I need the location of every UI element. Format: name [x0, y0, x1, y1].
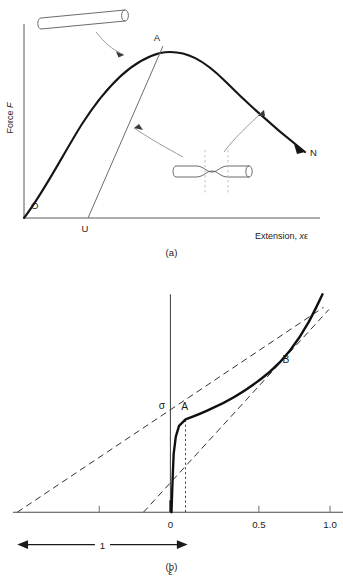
- label-point-a-b: A: [181, 401, 188, 412]
- y-label-prefix: Force: [5, 108, 15, 134]
- pointer-undeformed-to-curve: [96, 32, 124, 55]
- pointer-undeformed-arrowhead: [116, 52, 124, 58]
- true-stress-strain-curve: [172, 294, 323, 512]
- xtick-label-0: 0: [168, 519, 174, 530]
- span-label: 1: [100, 540, 105, 551]
- span-arrowhead-left: [17, 540, 28, 549]
- panel-a-force-extension: A O U N Force F Extension, xε: [0, 0, 343, 245]
- label-point-o: O: [31, 200, 38, 211]
- label-point-n: N: [310, 147, 317, 158]
- force-extension-curve: [24, 52, 305, 218]
- necked-specimen-icon: [173, 150, 252, 194]
- panel-b-stress-strain: σ A B 0 0.5 1.0 1 ε: [0, 268, 343, 586]
- panel-b-y-axis-label: σ: [159, 400, 166, 411]
- panel-b-svg: σ A B 0 0.5 1.0 1 ε: [0, 268, 343, 586]
- panel-a-y-axis-label: Force F: [5, 102, 15, 134]
- panel-a-svg: A O U N Force F Extension, xε: [0, 0, 343, 245]
- tensile-test-figure: A O U N Force F Extension, xε (a): [0, 0, 343, 586]
- label-point-b: B: [283, 354, 290, 365]
- caption-panel-a: (a): [0, 247, 343, 258]
- curve-end-arrowhead: [294, 144, 305, 154]
- y-label-symbol: F: [5, 102, 15, 108]
- pointer-necked-to-descending: [224, 110, 264, 152]
- xtick-label-05: 0.5: [252, 519, 265, 530]
- undeformed-specimen-icon: [38, 10, 129, 29]
- tangent-line-to-b: [143, 309, 329, 512]
- x-label-prefix: Extension,: [255, 231, 300, 241]
- caption-panel-b: (b): [0, 561, 343, 572]
- label-point-u: U: [82, 223, 89, 234]
- x-label-symbol2: ε: [304, 231, 308, 241]
- span-arrowhead-right: [177, 540, 188, 549]
- pointer-necked-to-unload: [134, 128, 183, 157]
- label-point-a: A: [154, 32, 161, 43]
- xtick-label-10: 1.0: [323, 519, 337, 530]
- unit-strain-span-arrow: 1: [17, 537, 187, 552]
- panel-a-x-axis-label: Extension, xε: [255, 231, 308, 241]
- svg-text:Force F: Force F: [5, 102, 15, 134]
